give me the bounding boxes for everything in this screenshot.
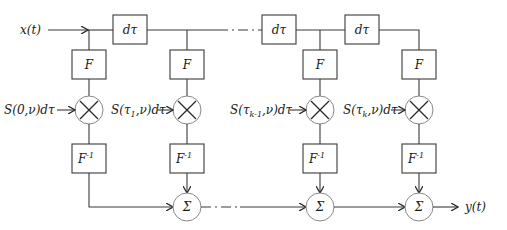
sum-icon: Σ [315,200,325,214]
tapped-delay-line-diagram: x(t) dτ dτ dτ F S(0,ν)dτ F-1 F [0,0,507,230]
weight-label: S(τk-1,ν)dτ [230,103,293,119]
top-wire [379,30,419,50]
delay-block-3: dτ [345,15,379,44]
weight-label: S(τk,ν)dτ [343,103,398,119]
input-label: x(t) [20,23,41,37]
branch-k-minus-1: F S(τk-1,ν)dτ F-1 Σ [230,30,337,221]
weight-label: S(τ1,ν)dτ [111,103,166,119]
svg-text:F: F [182,58,192,72]
weight-label: S(0,ν)dτ [4,103,55,117]
svg-text:dτ: dτ [272,23,287,37]
svg-text:F: F [315,58,325,72]
svg-text:F: F [84,58,94,72]
branch-k: F S(τk,ν)dτ F-1 Σ [343,50,436,221]
output-label: y(t) [464,200,486,214]
delay-block-2: dτ [262,15,296,44]
svg-text:dτ: dτ [355,23,370,37]
branch-0: F S(0,ν)dτ F-1 [4,30,173,207]
svg-text:F: F [414,58,424,72]
sum-icon: Σ [182,200,192,214]
sum-icon: Σ [414,200,424,214]
branch-1: F S(τ1,ν)dτ F-1 Σ [111,30,204,221]
svg-text:dτ: dτ [123,23,138,37]
delay-block-1: dτ [113,15,147,44]
